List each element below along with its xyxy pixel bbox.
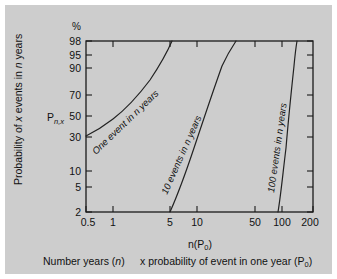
x-tick-label: 50	[249, 216, 261, 228]
svg-text:Pn,x: Pn,x	[47, 111, 64, 126]
y-axis-unit-label: %	[72, 21, 81, 32]
x-axis-title-primary-text: n(P	[188, 238, 204, 250]
y-axis-title: Probability of x events in n years	[12, 34, 24, 185]
curve-ten-events	[170, 41, 236, 212]
curve-label-hundred-events: 100 events in n years	[265, 102, 288, 193]
y-axis-symbol-label: Pn,x	[47, 111, 64, 126]
y-tick-label: 30	[69, 131, 81, 143]
y-tick-label: 98	[69, 35, 81, 47]
x-tick-label: 100	[273, 216, 291, 228]
x-axis-title-secondary: Number years (n) x probability of event …	[43, 255, 312, 269]
x-axis-ticks-top	[113, 41, 282, 47]
y-tick-label: 5	[75, 181, 81, 193]
y-tick-label: 50	[69, 110, 81, 122]
x-axis-title-right: x probability of event in one year (P0)	[140, 255, 312, 269]
probability-chart: 98 95 90 70 50 30 10 5 2 % Pn,x 0.5 1 5 …	[0, 0, 337, 279]
y-tick-label: 95	[69, 49, 81, 61]
x-axis-tick-labels: 0.5 1 5 10 50 100 200	[81, 216, 319, 228]
y-axis-ticks-left	[86, 41, 92, 212]
x-tick-label: 0.5	[81, 216, 96, 228]
figure-container: 98 95 90 70 50 30 10 5 2 % Pn,x 0.5 1 5 …	[0, 0, 337, 279]
y-axis-symbol: P	[47, 111, 54, 123]
x-tick-label: 200	[301, 216, 319, 228]
curve-label-one-event: One event in n years	[90, 87, 161, 156]
y-axis-ticks-right	[307, 41, 313, 212]
x-tick-label: 5	[167, 216, 173, 228]
x-axis-title-left: Number years (n)	[43, 255, 125, 267]
x-axis-title-primary: n(P0)	[188, 238, 212, 252]
x-tick-label: 10	[191, 216, 203, 228]
y-tick-label: 10	[69, 165, 81, 177]
y-tick-label: 90	[69, 62, 81, 74]
x-tick-label: 1	[110, 216, 116, 228]
y-axis-symbol-subscript: n,x	[54, 117, 64, 126]
y-tick-label: 70	[69, 89, 81, 101]
y-axis-tick-labels: 98 95 90 70 50 30 10 5 2	[69, 35, 81, 218]
